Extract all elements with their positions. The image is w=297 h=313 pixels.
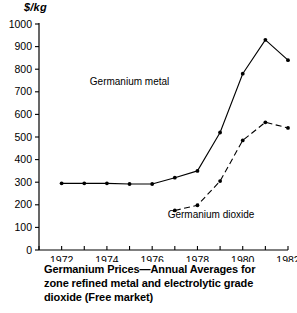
data-point xyxy=(286,126,290,130)
caption-line-2: zone refined metal and electrolytic grad… xyxy=(44,276,296,290)
y-tick-label: 500 xyxy=(14,131,32,143)
chart-caption: Germanium Prices—Annual Averages for zon… xyxy=(44,262,296,304)
data-point xyxy=(60,181,64,185)
y-tick-label: 100 xyxy=(14,221,32,233)
x-tick-label: 1980 xyxy=(231,254,255,263)
data-point xyxy=(196,169,200,173)
y-tick-label: 400 xyxy=(14,153,32,165)
data-point xyxy=(263,38,267,42)
y-tick-label: 600 xyxy=(14,108,32,120)
x-tick-label: 1972 xyxy=(50,254,74,263)
data-point xyxy=(150,182,154,186)
data-point xyxy=(218,179,222,183)
data-point xyxy=(218,131,222,135)
data-point xyxy=(286,58,290,62)
y-tick-label: 700 xyxy=(14,85,32,97)
x-tick-label: 1976 xyxy=(141,254,165,263)
y-tick-label: 200 xyxy=(14,198,32,210)
y-tick-label: 800 xyxy=(14,63,32,75)
x-tick-label: 1982 xyxy=(276,254,297,263)
caption-line-3: dioxide (Free market) xyxy=(44,290,296,304)
data-point xyxy=(241,72,245,76)
y-tick-label: 300 xyxy=(14,176,32,188)
data-point xyxy=(196,203,200,207)
data-point xyxy=(263,120,267,124)
y-tick-label: 900 xyxy=(14,40,32,52)
data-point xyxy=(241,138,245,142)
x-tick-label: 1974 xyxy=(95,254,119,263)
caption-line-1: Germanium Prices—Annual Averages for xyxy=(44,262,296,276)
y-tick-label: 1000 xyxy=(9,18,33,30)
data-point xyxy=(82,181,86,185)
data-point xyxy=(128,182,132,186)
series-annotation-2: Germanium dioxide xyxy=(168,209,255,220)
chart-figure: $/kg 01002003004005006007008009001000197… xyxy=(0,0,297,313)
y-tick-label: 0 xyxy=(26,244,32,256)
data-point xyxy=(173,176,177,180)
series-line-2 xyxy=(175,122,288,210)
x-tick-label: 1978 xyxy=(186,254,210,263)
chart-plot-area: 0100200300400500600700800900100019721974… xyxy=(0,0,297,262)
series-line-1 xyxy=(62,40,288,184)
series-annotation-1: Germanium metal xyxy=(90,76,169,87)
data-point xyxy=(105,181,109,185)
